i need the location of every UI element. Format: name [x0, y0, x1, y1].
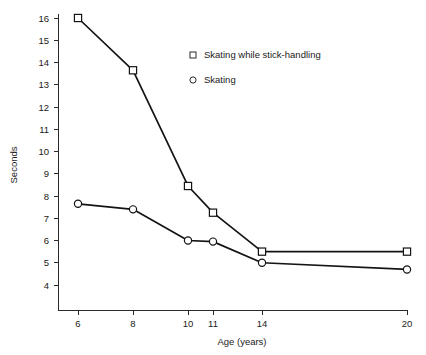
legend-label: Skating	[204, 74, 236, 85]
x-axis-title: Age (years)	[217, 336, 266, 347]
y-tick-label: 9	[44, 168, 49, 179]
circle-marker-icon	[74, 200, 81, 207]
y-axis-title: Seconds	[8, 146, 19, 183]
y-tick-label: 13	[38, 79, 49, 90]
circle-marker-icon	[129, 206, 136, 213]
x-tick-label: 14	[257, 318, 268, 329]
chart-legend: Skating while stick-handlingSkating	[190, 49, 321, 85]
y-tick-label: 7	[44, 213, 49, 224]
chart-container: 45678910111213141516 6810111420 Seconds …	[0, 0, 426, 355]
y-tick-label: 16	[38, 13, 49, 24]
y-tick-label: 5	[44, 257, 49, 268]
circle-marker-icon	[403, 266, 410, 273]
x-tick-label: 11	[208, 318, 218, 329]
square-marker-icon	[129, 67, 136, 74]
square-marker-icon	[74, 14, 81, 21]
square-marker-icon	[209, 209, 216, 216]
y-tick-label: 8	[44, 191, 49, 202]
x-axis-ticks: 6810111420	[75, 310, 412, 329]
x-tick-label: 20	[402, 318, 413, 329]
square-marker-icon	[258, 248, 265, 255]
y-tick-label: 15	[38, 35, 49, 46]
legend-label: Skating while stick-handling	[204, 49, 321, 60]
y-tick-label: 10	[38, 146, 49, 157]
y-tick-label: 12	[38, 102, 49, 113]
x-tick-label: 6	[75, 318, 80, 329]
y-tick-label: 14	[38, 57, 49, 68]
circle-marker-icon	[258, 259, 265, 266]
line-chart: 45678910111213141516 6810111420 Seconds …	[0, 0, 426, 355]
circle-marker-icon	[209, 238, 216, 245]
square-marker-icon	[190, 52, 196, 58]
y-tick-label: 6	[44, 235, 49, 246]
x-tick-label: 10	[183, 318, 194, 329]
square-marker-icon	[403, 248, 410, 255]
circle-marker-icon	[184, 237, 191, 244]
x-tick-label: 8	[130, 318, 135, 329]
y-tick-label: 11	[39, 124, 49, 135]
y-tick-label: 4	[44, 280, 49, 291]
square-marker-icon	[184, 182, 191, 189]
circle-marker-icon	[190, 77, 196, 83]
y-axis-ticks: 45678910111213141516	[38, 13, 58, 291]
